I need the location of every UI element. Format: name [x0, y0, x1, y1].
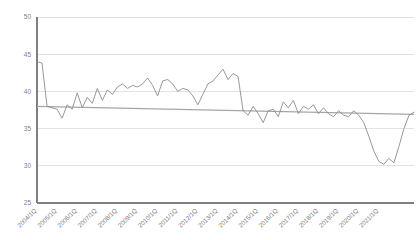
- x-tick-label: 2005/1Q: [36, 207, 59, 230]
- x-tick-label: 2015/1Q: [237, 207, 260, 230]
- y-tick-labels: 253035404550: [24, 13, 32, 206]
- x-tick-label: 2016/1Q: [257, 207, 280, 230]
- x-tick-label: 2013/1Q: [197, 207, 220, 230]
- x-tick-label: 2010/1Q: [136, 207, 159, 230]
- reference-trend-line: [37, 106, 414, 114]
- x-tick-label: 2009/1Q: [116, 207, 139, 230]
- x-tick-label: 2012/1Q: [177, 207, 200, 230]
- x-tick-label: 2011/1Q: [157, 207, 179, 229]
- y-tick-label: 40: [24, 88, 32, 95]
- y-tick-label: 45: [24, 51, 32, 58]
- trend-line-group: [37, 106, 414, 114]
- y-tick-label: 30: [24, 162, 32, 169]
- x-tick-label: 2019/1Q: [317, 207, 340, 230]
- x-tick-label: 2008/1Q: [96, 207, 119, 230]
- x-tick-label: 2007/1Q: [76, 207, 99, 230]
- x-tick-label: 2021/1Q: [357, 207, 380, 230]
- x-tick-label: 2014/1Q: [217, 207, 240, 230]
- x-tick-labels: 2004/1Q2005/1Q2006/1Q2007/1Q2008/1Q2009/…: [16, 207, 381, 230]
- x-tick-label: 2018/1Q: [297, 207, 320, 230]
- x-tick-label: 2020/1Q: [337, 207, 360, 230]
- grid-lines: [37, 17, 414, 166]
- y-tick-label: 35: [24, 125, 32, 132]
- line-chart: 253035404550 2004/1Q2005/1Q2006/1Q2007/1…: [0, 0, 420, 240]
- x-tick-label: 2006/1Q: [56, 207, 79, 230]
- y-tick-label: 25: [24, 199, 32, 206]
- x-tick-label: 2017/1Q: [277, 207, 300, 230]
- chart-canvas: 253035404550 2004/1Q2005/1Q2006/1Q2007/1…: [0, 0, 420, 240]
- y-tick-label: 50: [24, 13, 32, 20]
- x-tick-label: 2004/1Q: [16, 207, 39, 230]
